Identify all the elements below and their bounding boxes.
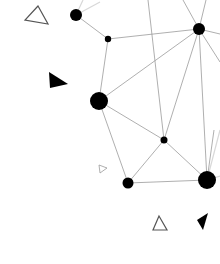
edge-e-f <box>128 140 164 183</box>
small-outline-triangle-icon <box>99 165 107 173</box>
edge-f-g <box>128 180 207 183</box>
solid-triangle-left-icon <box>49 72 68 88</box>
node-d <box>90 92 108 110</box>
node-e <box>161 137 168 144</box>
nodes <box>70 9 216 189</box>
node-g <box>198 171 216 189</box>
edge-a-b <box>76 15 108 39</box>
node-b <box>105 36 111 42</box>
node-c <box>193 23 205 35</box>
edge-c-f <box>164 29 199 140</box>
network-diagram <box>0 0 220 264</box>
outline-triangle-bottom-icon <box>153 216 167 230</box>
edge-b-d <box>99 39 108 101</box>
decorative-triangles <box>25 6 208 230</box>
edge-c-g <box>199 29 207 180</box>
edge-b-c <box>108 29 199 39</box>
outline-triangle-top-left-icon <box>25 6 48 24</box>
node-a <box>70 9 82 21</box>
edge-d-e <box>99 101 164 140</box>
node-f <box>123 178 134 189</box>
edge-c-d <box>99 29 199 101</box>
solid-triangle-bottom-right-icon <box>197 213 208 230</box>
edge-top-to-e <box>148 0 164 140</box>
